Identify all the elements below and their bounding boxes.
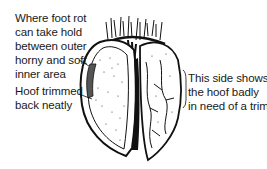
label-line: the hoof badly	[188, 85, 267, 99]
label-line: Where foot rot	[15, 11, 87, 25]
bracket-untrimmed	[183, 70, 186, 108]
label-line: can take hold	[15, 25, 87, 39]
label-line: This side shows	[188, 71, 267, 85]
label-line: horny and soft	[15, 53, 87, 67]
label-line: inner area	[15, 67, 87, 81]
label-trimmed: Hoof trimmed back neatly	[15, 84, 83, 112]
label-line: in need of a trim	[188, 99, 267, 113]
label-line: Hoof trimmed	[15, 84, 83, 98]
label-line: back neatly	[15, 98, 83, 112]
label-line: between outer	[15, 39, 87, 53]
untrimmed-claw	[140, 42, 181, 160]
label-foot-rot: Where foot rot can take hold between out…	[15, 11, 87, 81]
label-untrimmed: This side shows the hoof badly in need o…	[188, 71, 267, 113]
